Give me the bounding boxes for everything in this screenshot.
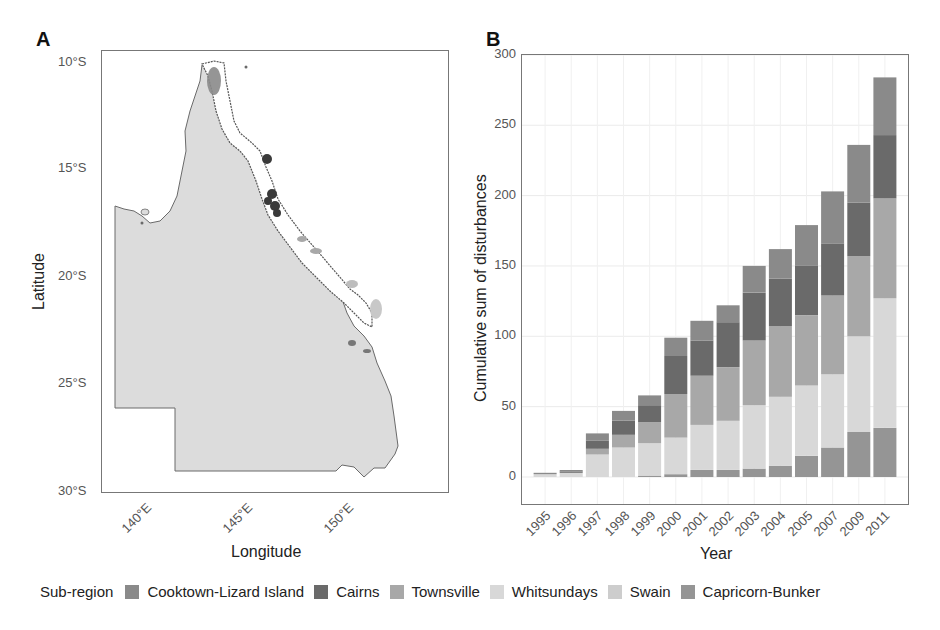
bar-segment	[769, 466, 792, 477]
bar-segment	[534, 473, 557, 474]
bar-segment	[769, 327, 792, 397]
bar-segment	[612, 448, 635, 478]
chart-ytick: 300	[480, 46, 516, 61]
bar-segment	[560, 470, 583, 471]
map-xlabel: Longitude	[231, 543, 301, 561]
chart-ytick: 250	[480, 116, 516, 131]
bar-segment	[769, 279, 792, 327]
bar-segment	[664, 474, 687, 477]
legend-label: Townsville	[412, 583, 480, 600]
chart-xtick: 2000	[653, 508, 684, 539]
bar-segment	[664, 356, 687, 394]
bar-segment	[743, 293, 766, 341]
chart-xtick: 1996	[549, 508, 580, 539]
bar-segment	[664, 338, 687, 356]
map-xtick: 145°E	[219, 500, 255, 536]
chart-xtick: 2009	[836, 508, 867, 539]
chart-xtick: 2004	[758, 508, 789, 539]
bar-segment	[847, 256, 870, 336]
legend-swatch	[681, 585, 695, 599]
bar-segment	[743, 266, 766, 293]
bar-segment	[847, 336, 870, 432]
bar-segment	[586, 440, 609, 448]
bar-segment	[717, 470, 740, 477]
chart-xtick: 2007	[810, 508, 841, 539]
bar-segment	[821, 374, 844, 447]
bar-segment	[612, 421, 635, 435]
bar-segment	[690, 321, 713, 341]
bar-segment	[743, 469, 766, 477]
map-ytick: 20°S	[58, 268, 86, 283]
map-panel	[101, 50, 449, 493]
bar-segment	[795, 386, 818, 456]
legend-label: Capricorn-Bunker	[703, 583, 821, 600]
legend-label: Cairns	[336, 583, 379, 600]
bar-segment	[690, 470, 713, 477]
bar-segment	[664, 394, 687, 438]
bar-segment	[638, 422, 661, 443]
chart-xtick: 2005	[784, 508, 815, 539]
bar-segment	[873, 77, 896, 135]
bar-segment	[586, 433, 609, 440]
legend-swatch	[490, 585, 504, 599]
bar-segment	[638, 395, 661, 405]
legend-swatch	[390, 585, 404, 599]
chart-plot-area	[521, 54, 909, 505]
bar-segment	[690, 425, 713, 470]
map-ytick: 30°S	[58, 483, 86, 498]
bar-segment	[795, 225, 818, 266]
bar-segment	[534, 474, 557, 477]
legend-item-cooktown: Cooktown-Lizard Island	[125, 583, 304, 600]
bar-segment	[873, 298, 896, 427]
legend-swatch	[125, 585, 139, 599]
bar-segment	[821, 191, 844, 243]
map-xtick: 150°E	[320, 500, 356, 536]
legend-item-capricorn-bunker: Capricorn-Bunker	[681, 583, 821, 600]
bar-segment	[638, 405, 661, 422]
bar-segment	[743, 341, 766, 406]
chart-xlabel: Year	[700, 545, 732, 563]
legend-title: Sub-region	[40, 583, 113, 600]
bar-segment	[821, 448, 844, 478]
legend-label: Whitsundays	[512, 583, 598, 600]
legend: Sub-region Cooktown-Lizard Island Cairns…	[40, 583, 830, 600]
map-ytick: 10°S	[58, 54, 86, 69]
bar-segment	[743, 405, 766, 468]
bar-segment	[717, 305, 740, 322]
bar-segment	[769, 397, 792, 466]
chart-xtick: 2002	[706, 508, 737, 539]
chart-xtick: 1995	[523, 508, 554, 539]
legend-item-cairns: Cairns	[314, 583, 379, 600]
bar-segment	[795, 266, 818, 315]
map-ytick: 15°S	[58, 160, 86, 175]
chart-ytick: 0	[480, 468, 516, 483]
map-xtick: 140°E	[118, 500, 154, 536]
bar-segment	[847, 203, 870, 257]
bar-segment	[560, 471, 583, 472]
chart-xtick: 2001	[679, 508, 710, 539]
bar-segment	[638, 443, 661, 475]
chart-xtick: 2011	[862, 508, 892, 538]
bar-segment	[586, 449, 609, 455]
chart-ylabel: Cumulative sum of disturbances	[472, 174, 490, 402]
queensland-map	[102, 51, 448, 492]
stacked-bar-chart	[522, 55, 908, 504]
legend-item-whitsundays: Whitsundays	[490, 583, 598, 600]
bar-segment	[847, 432, 870, 477]
bar-segment	[717, 367, 740, 421]
legend-label: Cooktown-Lizard Island	[147, 583, 304, 600]
chart-xtick: 2003	[732, 508, 763, 539]
map-ytick: 25°S	[58, 375, 86, 390]
bar-segment	[821, 243, 844, 295]
bar-segment	[560, 473, 583, 477]
chart-xtick: 1999	[627, 508, 658, 539]
bar-segment	[873, 135, 896, 198]
bar-segment	[638, 476, 661, 477]
legend-label: Swain	[630, 583, 671, 600]
bar-segment	[847, 145, 870, 203]
bar-segment	[795, 315, 818, 385]
chart-xtick: 1997	[575, 508, 606, 539]
bar-segment	[664, 438, 687, 475]
bar-segment	[690, 376, 713, 425]
map-ylabel: Latitude	[30, 253, 48, 310]
